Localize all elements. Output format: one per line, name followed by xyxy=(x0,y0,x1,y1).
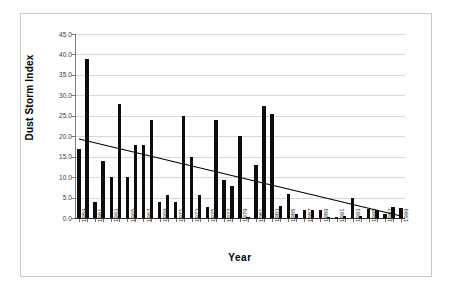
chart-screenshot: Dust Storm Index 0.05.010.015.020.025.03… xyxy=(0,0,458,296)
x-tick-mark xyxy=(168,219,169,222)
y-tick-label: 45.0 xyxy=(38,31,72,38)
x-tick-mark xyxy=(256,219,257,222)
x-tick-mark xyxy=(385,219,386,222)
x-tick-mark xyxy=(353,219,354,222)
y-tick-label: 35.0 xyxy=(38,71,72,78)
y-tick-mark xyxy=(71,54,75,55)
x-tick-mark xyxy=(224,219,225,222)
y-tick-label: 10.0 xyxy=(38,174,72,181)
x-tick-mark xyxy=(200,219,201,222)
x-tick-mark xyxy=(272,219,273,222)
x-tick-mark xyxy=(320,219,321,222)
x-tick-mark xyxy=(240,219,241,222)
x-axis-title: Year xyxy=(75,252,405,263)
y-tick-label: 30.0 xyxy=(38,92,72,99)
x-tick-mark xyxy=(232,219,233,222)
x-tick-mark xyxy=(296,219,297,222)
x-tick-mark xyxy=(369,219,370,222)
x-tick-mark xyxy=(329,219,330,222)
x-tick-mark xyxy=(208,219,209,222)
x-tick-mark xyxy=(216,219,217,222)
x-tick-mark xyxy=(143,219,144,222)
x-tick-mark xyxy=(160,219,161,222)
x-axis-tick-labels: 1959196119631965196719691971197319751977… xyxy=(75,222,405,252)
y-tick-mark xyxy=(71,95,75,96)
y-axis-title: Dust Storm Index xyxy=(24,23,35,173)
y-axis-tick-labels: 0.05.010.015.020.025.030.035.040.045.0 xyxy=(34,0,72,296)
y-tick-mark xyxy=(71,218,75,219)
x-tick-mark xyxy=(151,219,152,222)
x-tick-mark xyxy=(135,219,136,222)
x-tick-mark xyxy=(119,219,120,222)
x-tick-mark xyxy=(79,219,80,222)
x-tick-mark xyxy=(87,219,88,222)
y-tick-label: 15.0 xyxy=(38,153,72,160)
x-tick-mark xyxy=(111,219,112,222)
x-tick-mark xyxy=(393,219,394,222)
y-tick-label: 5.0 xyxy=(38,194,72,201)
x-tick-mark xyxy=(312,219,313,222)
x-tick-mark xyxy=(176,219,177,222)
x-tick-mark xyxy=(103,219,104,222)
x-tick-mark xyxy=(377,219,378,222)
x-tick-mark xyxy=(401,219,402,222)
y-tick-mark xyxy=(71,116,75,117)
x-tick-mark xyxy=(184,219,185,222)
x-tick-mark xyxy=(95,219,96,222)
x-tick-mark xyxy=(248,219,249,222)
x-tick-mark xyxy=(288,219,289,222)
y-tick-mark xyxy=(71,198,75,199)
trendline xyxy=(75,34,405,218)
y-tick-mark xyxy=(71,157,75,158)
y-tick-mark xyxy=(71,75,75,76)
x-tick-mark xyxy=(345,219,346,222)
x-tick-mark xyxy=(337,219,338,222)
y-tick-label: 40.0 xyxy=(38,51,72,58)
y-tick-mark xyxy=(71,177,75,178)
x-tick-label: 1999 xyxy=(403,208,409,222)
x-tick-mark xyxy=(304,219,305,222)
x-tick-mark xyxy=(361,219,362,222)
y-tick-mark xyxy=(71,136,75,137)
x-tick-mark xyxy=(280,219,281,222)
x-tick-mark xyxy=(127,219,128,222)
y-tick-label: 25.0 xyxy=(38,112,72,119)
y-tick-mark xyxy=(71,34,75,35)
y-tick-label: 20.0 xyxy=(38,133,72,140)
x-tick-mark xyxy=(264,219,265,222)
y-tick-label: 0.0 xyxy=(38,215,72,222)
x-tick-mark xyxy=(192,219,193,222)
